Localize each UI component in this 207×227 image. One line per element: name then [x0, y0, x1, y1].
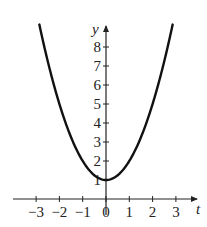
x-axis-label: t — [196, 201, 201, 217]
x-tick-label: 0 — [102, 204, 110, 220]
y-tick-label: 7 — [94, 58, 102, 74]
y-tick-label: 3 — [94, 134, 102, 150]
x-tick-label: 3 — [172, 204, 180, 220]
y-tick-label: 2 — [94, 153, 102, 169]
x-tick-label: −3 — [28, 204, 44, 220]
x-tick-label: 1 — [126, 204, 134, 220]
y-tick-label: 5 — [94, 96, 102, 112]
x-tick-label: 2 — [149, 204, 157, 220]
y-tick-label: 4 — [94, 115, 102, 131]
y-tick-label: 8 — [94, 39, 102, 55]
y-ticks: 12345678 — [94, 39, 110, 188]
x-tick-label: −1 — [75, 204, 91, 220]
y-tick-label: 6 — [94, 77, 102, 93]
x-tick-label: −2 — [51, 204, 67, 220]
y-axis-label: y — [90, 21, 99, 37]
chart: −3−2−10123 12345678 t y — [0, 0, 207, 227]
axes — [13, 26, 197, 215]
